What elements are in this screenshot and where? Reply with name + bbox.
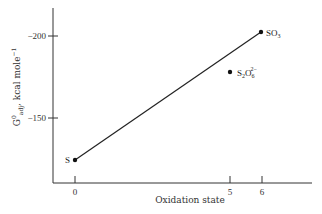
point-s: [73, 158, 77, 162]
x-tick-label-6: 6: [260, 187, 265, 197]
label-s2o6: S2O62−: [237, 66, 258, 79]
label-s: S: [65, 155, 70, 165]
point-so3: [259, 30, 263, 34]
label-so3: SO3: [266, 28, 281, 39]
chart-plot: −200 −150 0 5 6 S SO3 S2O62−: [0, 0, 322, 214]
trend-line: [75, 32, 261, 160]
y-tick-label-150: −150: [27, 113, 46, 123]
y-axis-label: G0adj, kcal mole−1: [10, 32, 24, 142]
y-tick-label-200: −200: [27, 31, 46, 41]
x-tick-label-0: 0: [73, 187, 78, 197]
x-axis-label: Oxidation state: [120, 195, 260, 205]
point-s2o6: [228, 70, 232, 74]
